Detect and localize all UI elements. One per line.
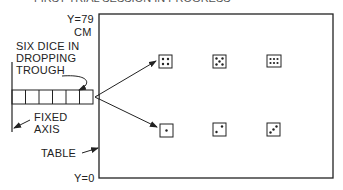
diagram-canvas [0,0,343,190]
die-six [267,55,281,67]
throw-arrow-upper [95,61,156,97]
y-top-label: Y=79 [67,13,94,25]
dropping-trough [12,90,93,104]
trough-label-line2: DROPPING [16,52,76,64]
trough-label-line3: TROUGH [16,64,65,76]
table-label: TABLE [41,147,76,159]
fixed-axis-label-line1: FIXED [34,111,67,123]
fixed-axis-label-line2: AXIS [34,123,60,135]
die-four [159,55,172,68]
die-three [267,123,280,136]
die-one [160,124,173,137]
table-rect [99,14,333,178]
die-two [213,123,226,136]
trough-pointer-arrow [62,76,87,90]
die-five [213,55,226,68]
throw-arrow-lower [95,97,157,127]
trough-label-line1: SIX DICE IN [16,40,79,52]
axis-pointer-arrow [14,120,30,128]
table-pointer-arrow [82,148,98,153]
y-bottom-label: Y=0 [74,172,94,184]
y-unit-label: CM [74,26,92,38]
